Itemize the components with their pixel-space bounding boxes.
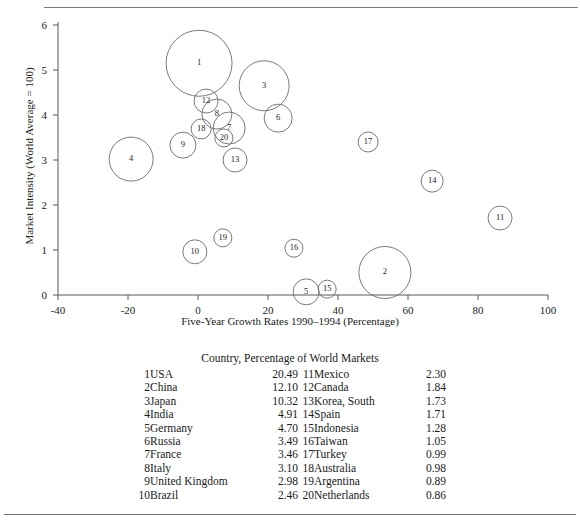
bubble-label-17: 17 — [364, 136, 373, 146]
legend-country: USA — [150, 368, 258, 381]
legend-percent: 3.10 — [258, 462, 298, 475]
legend-country: Korea, South — [314, 395, 406, 408]
legend-index: 13 — [298, 395, 314, 408]
bubble-label-6: 6 — [276, 112, 280, 122]
legend-country: United Kingdom — [150, 475, 258, 488]
bubble-label-2: 2 — [383, 266, 387, 276]
legend-row: 8Italy3.1018Australia0.98 — [134, 462, 446, 475]
chart-page: -40-200204060801000123456123478659101112… — [0, 0, 580, 523]
legend-index: 16 — [298, 435, 314, 448]
y-tick-label: 2 — [42, 199, 48, 211]
legend-index: 8 — [134, 462, 150, 475]
legend-row: 3Japan10.3213Korea, South1.73 — [134, 395, 446, 408]
legend-percent: 20.49 — [258, 368, 298, 381]
legend-index: 5 — [134, 422, 150, 435]
legend-percent: 2.30 — [406, 368, 446, 381]
y-tick-label: 4 — [42, 109, 48, 121]
legend-index: 7 — [134, 448, 150, 461]
legend-index: 19 — [298, 475, 314, 488]
bubble-label-10: 10 — [191, 246, 200, 256]
legend-country: Italy — [150, 462, 258, 475]
bubble-label-5: 5 — [304, 286, 308, 296]
bubble-label-8: 8 — [215, 108, 219, 118]
legend-country: France — [150, 448, 258, 461]
bubble-label-16: 16 — [290, 242, 299, 252]
legend-country: Russia — [150, 435, 258, 448]
legend-index: 3 — [134, 395, 150, 408]
legend-index: 17 — [298, 448, 314, 461]
legend-percent: 4.70 — [258, 422, 298, 435]
legend-percent: 1.73 — [406, 395, 446, 408]
bubble-label-1: 1 — [197, 57, 201, 67]
legend-index: 9 — [134, 475, 150, 488]
legend-index: 6 — [134, 435, 150, 448]
legend-index: 4 — [134, 408, 150, 421]
legend-percent: 0.89 — [406, 475, 446, 488]
bubble-label-9: 9 — [181, 139, 185, 149]
legend-index: 11 — [298, 368, 314, 381]
legend-index: 20 — [298, 489, 314, 502]
y-axis-title: Market Intensity (World Average = 100) — [23, 6, 35, 306]
legend-percent: 3.46 — [258, 448, 298, 461]
legend-index: 15 — [298, 422, 314, 435]
legend-percent: 0.98 — [406, 462, 446, 475]
bubble-label-18: 18 — [197, 123, 206, 133]
y-tick-label: 1 — [42, 244, 48, 256]
legend-country: Canada — [314, 381, 406, 394]
legend-table: 1USA20.4911Mexico2.302China12.1012Canada… — [134, 368, 446, 502]
legend-percent: 3.49 — [258, 435, 298, 448]
legend-row: 10Brazil2.4620Netherlands0.86 — [134, 489, 446, 502]
legend-country: Japan — [150, 395, 258, 408]
y-tick-label: 0 — [42, 289, 48, 301]
bubble-label-15: 15 — [323, 283, 332, 293]
legend-country: Australia — [314, 462, 406, 475]
legend-percent: 2.98 — [258, 475, 298, 488]
legend-index: 14 — [298, 408, 314, 421]
legend-country: Taiwan — [314, 435, 406, 448]
legend-country: Argentina — [314, 475, 406, 488]
bubble-label-20: 20 — [220, 132, 229, 142]
legend-index: 12 — [298, 381, 314, 394]
legend-row: 5Germany4.7015Indonesia1.28 — [134, 422, 446, 435]
legend-row: 7France3.4617Turkey0.99 — [134, 448, 446, 461]
legend-index: 2 — [134, 381, 150, 394]
legend-percent: 2.46 — [258, 489, 298, 502]
legend-percent: 0.86 — [406, 489, 446, 502]
legend-row: 9United Kingdom2.9819Argentina0.89 — [134, 475, 446, 488]
legend-percent: 12.10 — [258, 381, 298, 394]
legend-index: 10 — [134, 489, 150, 502]
bubble-label-3: 3 — [262, 80, 266, 90]
legend-row: 2China12.1012Canada1.84 — [134, 381, 446, 394]
country-legend: Country, Percentage of World Markets 1US… — [0, 352, 580, 502]
bubble-label-4: 4 — [129, 153, 134, 163]
legend-country: India — [150, 408, 258, 421]
legend-row: 6Russia3.4916Taiwan1.05 — [134, 435, 446, 448]
legend-percent: 1.84 — [406, 381, 446, 394]
bottom-rule — [4, 514, 576, 515]
legend-country: Turkey — [314, 448, 406, 461]
legend-country: Mexico — [314, 368, 406, 381]
legend-country: Netherlands — [314, 489, 406, 502]
legend-percent: 4.91 — [258, 408, 298, 421]
bubble-chart: -40-200204060801000123456123478659101112… — [0, 0, 580, 340]
plot-canvas: -40-200204060801000123456123478659101112… — [0, 0, 580, 340]
legend-country: Spain — [314, 408, 406, 421]
legend-percent: 1.71 — [406, 408, 446, 421]
legend-country: Indonesia — [314, 422, 406, 435]
legend-percent: 1.28 — [406, 422, 446, 435]
legend-index: 18 — [298, 462, 314, 475]
legend-row: 1USA20.4911Mexico2.30 — [134, 368, 446, 381]
y-tick-label: 5 — [42, 64, 48, 76]
legend-percent: 10.32 — [258, 395, 298, 408]
bubble-label-14: 14 — [428, 175, 437, 185]
legend-country: Germany — [150, 422, 258, 435]
bubble-label-13: 13 — [231, 154, 240, 164]
bubble-label-12: 12 — [202, 95, 211, 105]
legend-country: China — [150, 381, 258, 394]
x-axis-title: Five-Year Growth Rates 1990–1994 (Percen… — [0, 315, 580, 327]
legend-percent: 0.99 — [406, 448, 446, 461]
legend-country: Brazil — [150, 489, 258, 502]
legend-title: Country, Percentage of World Markets — [0, 352, 580, 364]
legend-percent: 1.05 — [406, 435, 446, 448]
legend-index: 1 — [134, 368, 150, 381]
